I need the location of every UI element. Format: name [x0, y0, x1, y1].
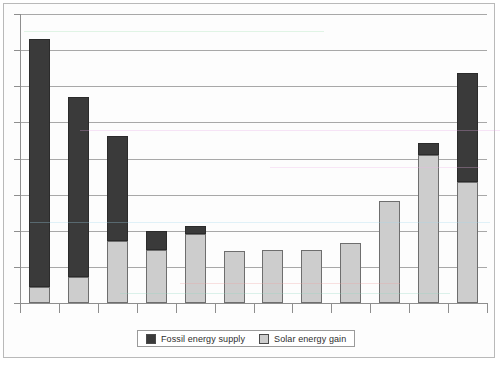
x-axis-tick	[137, 304, 138, 313]
scan-artifact-line	[180, 283, 400, 284]
gridline	[20, 231, 487, 232]
bar-segment-solar[interactable]	[185, 234, 206, 303]
chart-legend: Fossil energy supply Solar energy gain	[137, 330, 355, 347]
y-axis-tick	[14, 86, 20, 87]
scan-artifact-line	[120, 293, 450, 294]
bar[interactable]	[457, 73, 478, 303]
bar[interactable]	[224, 251, 245, 303]
y-axis-tick	[14, 195, 20, 196]
scan-artifact-line	[270, 167, 480, 168]
y-axis-tick	[14, 50, 20, 51]
x-axis-tick	[331, 304, 332, 313]
bar-segment-solar[interactable]	[379, 201, 400, 303]
y-axis-tick	[14, 267, 20, 268]
y-axis-tick	[14, 14, 20, 15]
scan-artifact-line	[24, 31, 324, 32]
legend-label-solar: Solar energy gain	[274, 334, 346, 344]
bar-segment-solar[interactable]	[418, 155, 439, 303]
gridline	[20, 14, 487, 15]
bar-segment-fossil[interactable]	[29, 39, 50, 287]
x-axis-tick	[487, 304, 488, 313]
bar-segment-solar[interactable]	[146, 250, 167, 303]
bar-segment-solar[interactable]	[224, 251, 245, 303]
x-axis-tick	[370, 304, 371, 313]
gridline	[20, 86, 487, 87]
bar[interactable]	[418, 143, 439, 303]
scan-artifact-line	[80, 130, 500, 131]
bar-segment-solar[interactable]	[107, 241, 128, 303]
bar-segment-fossil[interactable]	[457, 73, 478, 181]
x-axis-tick	[59, 304, 60, 313]
x-axis-tick	[98, 304, 99, 313]
legend-label-fossil: Fossil energy supply	[161, 334, 245, 344]
x-axis	[14, 303, 488, 304]
gridline	[20, 159, 487, 160]
x-axis-tick	[292, 304, 293, 313]
x-axis-tick	[215, 304, 216, 313]
bar[interactable]	[107, 136, 128, 303]
bar[interactable]	[262, 250, 283, 303]
x-axis-tick	[254, 304, 255, 313]
bar-segment-solar[interactable]	[457, 182, 478, 303]
bar-segment-fossil[interactable]	[146, 231, 167, 250]
x-axis-tick	[448, 304, 449, 313]
bar-segment-fossil[interactable]	[68, 97, 89, 277]
bar-segment-solar[interactable]	[68, 277, 89, 303]
bar[interactable]	[68, 97, 89, 303]
bar[interactable]	[340, 243, 361, 303]
stacked-bar-chart: Fossil energy supply Solar energy gain	[0, 0, 502, 365]
x-axis-tick	[20, 304, 21, 313]
bar-segment-fossil[interactable]	[418, 143, 439, 154]
bar-segment-solar[interactable]	[29, 287, 50, 303]
bar[interactable]	[379, 201, 400, 303]
gridline	[20, 195, 487, 196]
y-axis-tick	[14, 159, 20, 160]
x-axis-tick	[176, 304, 177, 313]
plot-area	[20, 14, 487, 303]
y-axis	[20, 14, 21, 304]
bar-segment-solar[interactable]	[262, 250, 283, 303]
bar[interactable]	[185, 226, 206, 303]
gridline	[20, 267, 487, 268]
gridline	[20, 50, 487, 51]
legend-entry-fossil[interactable]: Fossil energy supply	[146, 334, 245, 344]
y-axis-tick	[14, 122, 20, 123]
bar[interactable]	[301, 250, 322, 303]
x-axis-tick	[409, 304, 410, 313]
bar[interactable]	[29, 39, 50, 303]
y-axis-tick	[14, 231, 20, 232]
bar-segment-fossil[interactable]	[185, 226, 206, 234]
gridline	[20, 122, 487, 123]
bar-segment-fossil[interactable]	[107, 136, 128, 240]
legend-entry-solar[interactable]: Solar energy gain	[259, 334, 346, 344]
dark-swatch-icon	[146, 334, 156, 344]
bar-segment-solar[interactable]	[340, 243, 361, 303]
bar-segment-solar[interactable]	[301, 250, 322, 303]
light-swatch-icon	[259, 334, 269, 344]
bar[interactable]	[146, 231, 167, 303]
